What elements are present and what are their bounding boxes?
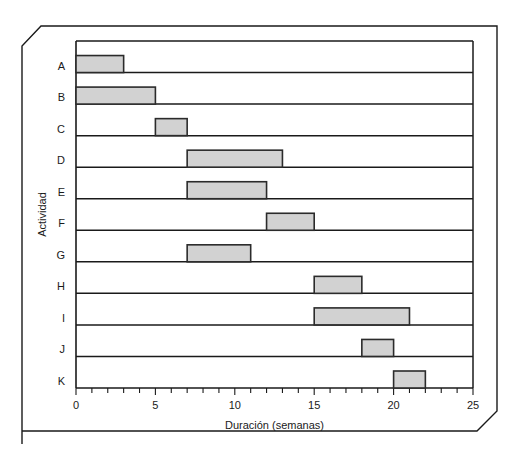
gantt-bar-E[interactable] — [187, 182, 266, 199]
gantt-bar-I[interactable] — [314, 308, 409, 325]
gantt-bar-H[interactable] — [314, 276, 362, 293]
x-tick-label-0: 0 — [73, 399, 79, 411]
y-tick-label-B: B — [58, 91, 65, 103]
gantt-bar-B[interactable] — [76, 87, 155, 104]
gantt-bar-G[interactable] — [187, 245, 251, 262]
y-tick-label-H: H — [57, 280, 65, 292]
gantt-bar-F[interactable] — [267, 213, 315, 230]
gantt-bar-K[interactable] — [394, 371, 426, 388]
y-tick-label-C: C — [57, 123, 65, 135]
y-tick-label-F: F — [58, 217, 65, 229]
gantt-bar-D[interactable] — [187, 150, 282, 167]
gantt-bar-J[interactable] — [362, 339, 394, 356]
y-axis-title: Actividad — [36, 192, 48, 237]
y-tick-label-J: J — [60, 343, 66, 355]
x-tick-label-10: 10 — [229, 399, 241, 411]
y-tick-label-A: A — [58, 60, 66, 72]
x-tick-label-15: 15 — [308, 399, 320, 411]
y-tick-label-G: G — [56, 249, 65, 261]
y-tick-label-E: E — [58, 186, 65, 198]
y-tick-label-D: D — [57, 154, 65, 166]
x-tick-label-20: 20 — [387, 399, 399, 411]
y-tick-label-K: K — [58, 375, 66, 387]
y-tick-label-I: I — [62, 312, 65, 324]
plot-area: ABCDEFGHIJK0510152025Duración (semanas)A… — [0, 0, 519, 465]
x-axis-title: Duración (semanas) — [225, 419, 324, 431]
gantt-bar-A[interactable] — [76, 56, 124, 73]
gantt-chart-figure: ABCDEFGHIJK0510152025Duración (semanas)A… — [0, 0, 519, 465]
x-tick-label-5: 5 — [152, 399, 158, 411]
gantt-bar-C[interactable] — [155, 119, 187, 136]
x-tick-label-25: 25 — [467, 399, 479, 411]
